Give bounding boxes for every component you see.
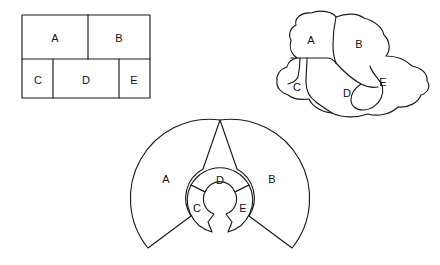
blob-label-e: E [379, 76, 386, 88]
rect-label-a: A [51, 32, 59, 44]
fan-label-d: D [216, 174, 224, 186]
rect-label-d: D [82, 74, 90, 86]
panel-organic-blob-partition: A B C D E [277, 11, 429, 117]
panel-radial-fan-partition: A B D C E [130, 119, 309, 248]
rect-label-c: C [34, 74, 42, 86]
blob-label-b: B [355, 38, 362, 50]
blob-label-a: A [307, 34, 315, 46]
panel-rectangular-partition: A B C D E [22, 15, 150, 98]
blob-label-c: C [293, 81, 301, 93]
three-panel-region-figure: A B C D E A B C D E [0, 0, 440, 265]
fan-label-e: E [239, 202, 246, 214]
rect-label-e: E [130, 74, 137, 86]
rect-label-b: B [115, 32, 122, 44]
fan-label-b: B [268, 173, 275, 185]
figure-root: A B C D E A B C D E [0, 0, 440, 265]
blob-label-d: D [343, 87, 351, 99]
fan-label-c: C [193, 202, 201, 214]
fan-label-a: A [162, 173, 170, 185]
